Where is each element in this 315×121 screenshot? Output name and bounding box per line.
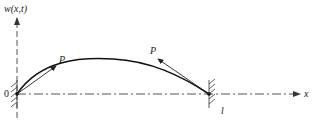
origin-label: 0 — [4, 88, 9, 99]
beam-curve — [17, 59, 209, 94]
force-arrow-left — [17, 66, 56, 94]
force-label-left: P — [58, 54, 65, 65]
y-axis-label: w(x,t) — [4, 3, 28, 15]
length-label: l — [221, 105, 224, 116]
force-arrow-right — [158, 59, 209, 94]
beam-diagram: w(x,t) x 0 l P P — [0, 0, 315, 121]
x-axis-label: x — [303, 88, 309, 99]
force-label-right: P — [149, 45, 156, 56]
